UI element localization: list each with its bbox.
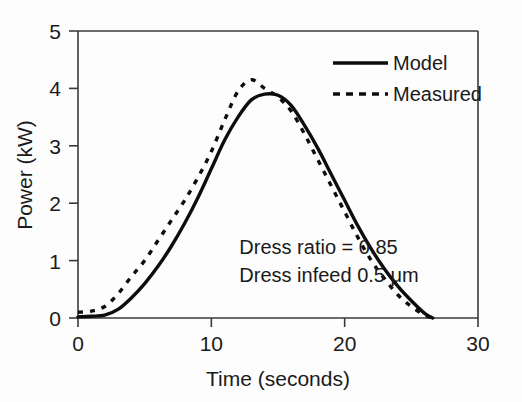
x-axis-title: Time (seconds) xyxy=(206,367,350,390)
x-tick-label: 20 xyxy=(333,332,356,355)
x-tick-label: 10 xyxy=(200,332,223,355)
y-tick-label: 2 xyxy=(49,192,61,215)
y-tick-label: 1 xyxy=(49,250,61,273)
chart-figure: 012345 0102030 Power (kW) Time (seconds)… xyxy=(0,0,522,402)
annotation-text: Dress infeed 0.5 μm xyxy=(239,264,418,286)
y-tick-label: 5 xyxy=(49,20,61,43)
annotation-text: Dress ratio = 0.85 xyxy=(239,236,397,258)
x-tick-label: 30 xyxy=(466,332,489,355)
y-tick-label: 3 xyxy=(49,135,61,158)
y-tick-label: 4 xyxy=(49,77,61,100)
legend-label-measured: Measured xyxy=(393,83,482,105)
y-tick-label: 0 xyxy=(49,307,61,330)
x-tick-label: 0 xyxy=(72,332,84,355)
legend-label-model: Model xyxy=(393,52,447,74)
power-vs-time-chart: 012345 0102030 Power (kW) Time (seconds)… xyxy=(0,0,522,402)
y-axis-title: Power (kW) xyxy=(13,120,36,230)
